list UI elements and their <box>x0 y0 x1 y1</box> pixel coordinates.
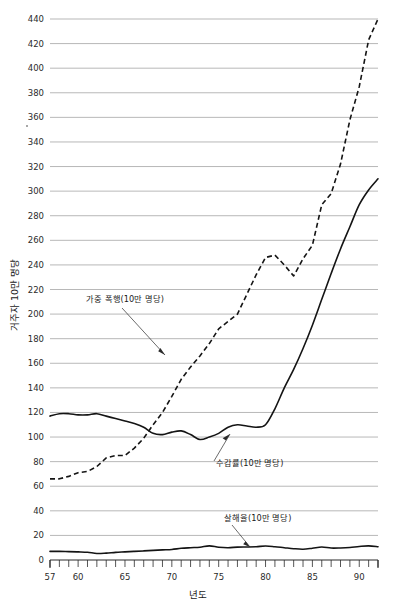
series-homicide-rate <box>50 546 378 554</box>
y-tick-label: 100 <box>28 432 44 442</box>
y-tick-label: 400 <box>28 63 44 73</box>
y-tick-label: 280 <box>28 211 44 221</box>
y-tick-label: 20 <box>33 530 44 540</box>
annotation-label-incarceration-rate: 수감률(10만 명당) <box>216 458 283 468</box>
series-path <box>50 19 378 479</box>
line-chart: 0204060801001201401601802002202402602803… <box>0 0 397 612</box>
y-tick-label: 420 <box>28 39 44 49</box>
x-tick-label: 85 <box>307 572 318 582</box>
y-tick-label: 360 <box>28 112 44 122</box>
x-axis-tick-labels: 5760657075808590 <box>45 572 365 582</box>
y-tick-label: 160 <box>28 358 44 368</box>
x-tick-label: 60 <box>73 572 84 582</box>
series-incarceration-rate <box>50 179 378 440</box>
y-tick-label: 180 <box>28 334 44 344</box>
annotation-label-homicide-rate: 살해율(10만 명당) <box>224 513 291 523</box>
y-tick-label: 40 <box>33 506 44 516</box>
x-tick-label: 57 <box>45 572 56 582</box>
series-path <box>50 179 378 440</box>
annotation-aggravated-assault: 가중 폭행(10만 명당) <box>86 294 165 355</box>
x-tick-label: 80 <box>260 572 271 582</box>
y-axis-title: 거주자 10만 명당 <box>9 259 20 331</box>
x-tick-label: 70 <box>166 572 177 582</box>
y-tick-label: 340 <box>28 137 44 147</box>
y-tick-label: 240 <box>28 260 44 270</box>
x-tick-label: 90 <box>354 572 365 582</box>
x-tick-label: 75 <box>213 572 224 582</box>
y-tick-label: 440 <box>28 14 44 24</box>
annotation-homicide-rate: 살해율(10만 명당) <box>224 513 291 547</box>
gridlines <box>50 19 378 535</box>
y-tick-label: 320 <box>28 162 44 172</box>
y-tick-label: 120 <box>28 407 44 417</box>
chart-container: 0204060801001201401601802002202402602803… <box>0 0 397 612</box>
y-tick-label: 140 <box>28 383 44 393</box>
y-tick-label: 80 <box>33 457 44 467</box>
series-aggravated-assault <box>50 19 378 479</box>
x-axis-tickmarks <box>50 560 378 567</box>
y-axis-tick-labels: 0204060801001201401601802002202402602803… <box>28 14 44 565</box>
annotation-label-aggravated-assault: 가중 폭행(10만 명당) <box>86 294 164 304</box>
y-tick-label: 300 <box>28 186 44 196</box>
y-tick-label: 200 <box>28 309 44 319</box>
x-axis-line <box>50 560 378 568</box>
x-axis-title: 년도 <box>189 589 207 600</box>
y-tick-label: 0 <box>39 555 44 565</box>
annotation-incarceration-rate: 수감률(10만 명당) <box>214 434 283 468</box>
y-tick-label: 380 <box>28 88 44 98</box>
y-tick-label: 220 <box>28 285 44 295</box>
x-tick-label: 65 <box>120 572 131 582</box>
page-speck <box>26 125 28 127</box>
y-tick-label: 60 <box>33 481 44 491</box>
y-tick-label: 260 <box>28 235 44 245</box>
series-path <box>50 546 378 554</box>
